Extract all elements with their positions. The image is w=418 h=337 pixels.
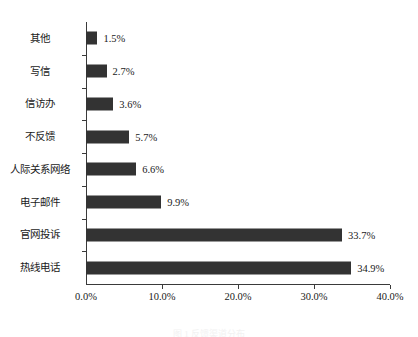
- bar-value-label: 5.7%: [129, 131, 157, 142]
- x-axis-tick-label: 30.0%: [300, 291, 327, 302]
- bar-value-label: 6.6%: [136, 164, 164, 175]
- bar: [86, 196, 161, 209]
- x-axis-tick: [162, 285, 163, 289]
- x-axis-tick-label: 10.0%: [148, 291, 175, 302]
- category-label: 人际关系网络: [0, 153, 80, 186]
- bar-row: 2.7%: [86, 55, 390, 88]
- category-label: 信访办: [0, 88, 80, 121]
- bar-value-label: 1.5%: [97, 33, 125, 44]
- bar-value-label: 9.9%: [161, 197, 189, 208]
- bar-row: 3.6%: [86, 88, 390, 121]
- bar-value-label: 34.9%: [351, 262, 384, 273]
- bar-row: 5.7%: [86, 120, 390, 153]
- category-label: 不反馈: [0, 120, 80, 153]
- bar-row: 33.7%: [86, 219, 390, 252]
- bar-value-label: 2.7%: [107, 66, 135, 77]
- x-axis-tick: [238, 285, 239, 289]
- bar-chart: 其他写信信访办不反馈人际关系网络电子邮件官网投诉热线电话 1.5%2.7%3.6…: [0, 0, 418, 337]
- category-label: 其他: [0, 22, 80, 55]
- y-axis-category-labels: 其他写信信访办不反馈人际关系网络电子邮件官网投诉热线电话: [0, 22, 80, 284]
- category-label: 电子邮件: [0, 186, 80, 219]
- bar: [86, 228, 342, 241]
- plot-area: 1.5%2.7%3.6%5.7%6.6%9.9%33.7%34.9%: [86, 22, 390, 284]
- category-label: 热线电话: [0, 251, 80, 284]
- bar-value-label: 3.6%: [113, 98, 141, 109]
- x-axis-tick: [314, 285, 315, 289]
- figure-caption: 图 1 反馈渠道分布: [0, 327, 418, 337]
- bar: [86, 65, 107, 78]
- bar: [86, 130, 129, 143]
- bar: [86, 97, 113, 110]
- bar-row: 34.9%: [86, 251, 390, 284]
- category-label: 官网投诉: [0, 219, 80, 252]
- category-label: 写信: [0, 55, 80, 88]
- bar-value-label: 33.7%: [342, 229, 375, 240]
- bar: [86, 163, 136, 176]
- x-axis-tick: [390, 285, 391, 289]
- bar-row: 1.5%: [86, 22, 390, 55]
- bar: [86, 261, 351, 274]
- x-axis-tick-label: 0.0%: [75, 291, 97, 302]
- bar: [86, 32, 97, 45]
- bar-row: 6.6%: [86, 153, 390, 186]
- bar-row: 9.9%: [86, 186, 390, 219]
- x-axis-tick-label: 40.0%: [376, 291, 403, 302]
- x-axis-tick-label: 20.0%: [224, 291, 251, 302]
